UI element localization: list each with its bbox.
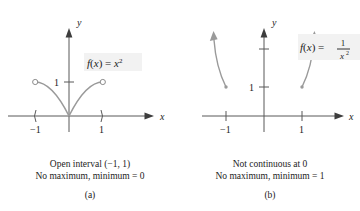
x-axis-label-a: x: [159, 111, 165, 122]
curve-left-branch-b: [210, 31, 228, 89]
open-endpoint-right-a: [100, 79, 105, 84]
x-ticklabel-pos1-b: 1: [299, 124, 304, 135]
figure-container: y x −1 1 1 f(x) = x2 Open interval (−1, …: [0, 0, 360, 211]
svg-text:f(x) =: f(x) =: [300, 41, 324, 54]
caption-b-line1: Not continuous at 0: [180, 158, 360, 170]
panel-b: y x −1 1 1 f(x) = 1 x 2 Not: [180, 0, 360, 211]
svg-text:2: 2: [346, 50, 349, 56]
svg-text:1: 1: [341, 38, 346, 48]
x-axis-a: [8, 113, 154, 120]
caption-a-line1: Open interval (−1, 1): [0, 158, 180, 170]
y-ticklabel-1-b: 1: [249, 82, 254, 93]
x-ticklabel-pos1-a: 1: [99, 124, 104, 135]
x-axis-label-b: x: [348, 111, 354, 122]
plot-b: y x −1 1 1 f(x) = 1 x 2: [180, 4, 360, 154]
panel-a: y x −1 1 1 f(x) = x2 Open interval (−1, …: [0, 0, 180, 211]
x-axis-b: [202, 113, 344, 120]
svg-text:f(x) = x2: f(x) = x2: [87, 57, 123, 70]
y-axis-label-a: y: [76, 17, 82, 28]
caption-b-line2: No maximum, minimum = 1: [180, 170, 360, 182]
function-label-a: f(x) = x2: [84, 53, 142, 71]
x-ticklabel-neg1-b: −1: [220, 124, 231, 135]
function-label-b: f(x) = 1 x 2: [298, 34, 360, 61]
panel-letter-a: (a): [0, 190, 180, 200]
panel-letter-b: (b): [180, 190, 360, 200]
y-ticklabel-1-a: 1: [54, 77, 59, 88]
x-ticklabel-neg1-a: −1: [30, 124, 41, 135]
caption-a-line2: No maximum, minimum = 0: [0, 170, 180, 182]
y-axis-label-b: y: [271, 17, 277, 28]
svg-text:x: x: [339, 51, 344, 61]
open-endpoint-left-a: [33, 79, 38, 84]
plot-a: y x −1 1 1 f(x) = x2: [0, 4, 180, 154]
